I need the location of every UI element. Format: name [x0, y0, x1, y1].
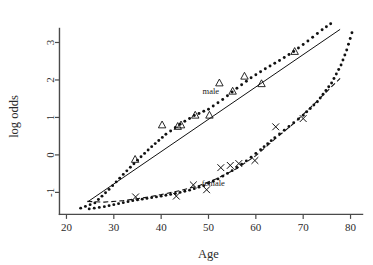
x-tick-label: 60 — [250, 221, 262, 233]
fit-dot — [273, 62, 276, 65]
fit-dot — [333, 77, 336, 80]
fit-dot — [129, 166, 132, 169]
fit-dot — [150, 196, 153, 199]
fit-dot — [297, 47, 300, 50]
x-tick-label: 50 — [203, 221, 215, 233]
fit-dot — [278, 132, 281, 135]
fit-dot — [273, 136, 276, 139]
y-tick-label: -1 — [44, 188, 56, 197]
fit-dot — [306, 40, 309, 43]
fit-dot — [288, 53, 291, 56]
fit-dot — [351, 31, 354, 34]
fit-dot — [188, 189, 191, 192]
fit-dot — [302, 114, 305, 117]
fit-dot — [259, 148, 262, 151]
fit-dot — [155, 195, 158, 198]
fit-dot — [212, 104, 215, 107]
fit-dot — [198, 186, 201, 189]
fit-dot — [250, 76, 253, 79]
fit-dot — [297, 117, 300, 120]
fit-dot — [270, 139, 273, 142]
fit-dot — [143, 152, 146, 155]
axes-layer: 20304050607080-10123 — [44, 28, 362, 233]
fit-dot — [207, 108, 210, 111]
fit-dot — [269, 65, 272, 68]
fit-dot — [254, 152, 257, 155]
fit-dot — [104, 191, 107, 194]
fit-dot — [122, 201, 125, 204]
fit-dot — [316, 32, 319, 35]
fit-dot — [89, 203, 92, 206]
fit-dot — [147, 149, 150, 152]
fit-dot — [188, 117, 191, 120]
x-tick-label: 40 — [156, 221, 168, 233]
y-tick-label: 3 — [44, 39, 56, 45]
fit-dot — [329, 22, 332, 25]
fit-dot — [264, 67, 267, 70]
fit-dot — [122, 173, 125, 176]
fit-dot — [140, 155, 143, 158]
y-tick-label: 1 — [44, 115, 56, 121]
fit-dot — [342, 59, 345, 62]
marker-triangle — [158, 121, 165, 128]
series-male — [131, 48, 298, 163]
fit-dot — [164, 194, 167, 197]
fit-dot — [101, 195, 104, 198]
fit-dot — [217, 101, 220, 104]
fit-dot — [327, 85, 330, 88]
fit-dot — [340, 64, 343, 67]
fit-dot — [325, 25, 328, 28]
fit-dot — [98, 206, 101, 209]
fit-dot — [202, 110, 205, 113]
fit-dot — [226, 172, 229, 175]
fit-dot — [283, 129, 286, 132]
fit-dot — [278, 59, 281, 62]
fit-dot — [240, 83, 243, 86]
labels-layer: Agelog oddsmalefemale — [7, 86, 225, 261]
fit-dot — [97, 198, 100, 201]
fit-dot — [235, 87, 238, 90]
annotation-female: female — [202, 178, 225, 188]
y-tick-label: 0 — [44, 152, 56, 158]
fit-dot — [198, 112, 201, 115]
fit-dot — [141, 198, 144, 201]
fit-dot — [117, 202, 120, 205]
fit-dot — [245, 80, 248, 83]
fit-dot — [93, 207, 96, 210]
fit-dot — [108, 204, 111, 207]
fit-dot — [157, 139, 160, 142]
fit-dot — [345, 49, 348, 52]
fit-dot — [337, 68, 340, 71]
fit-dot — [88, 207, 91, 210]
fit-dot — [263, 145, 266, 148]
fit-dot — [319, 97, 322, 100]
fit-dot — [111, 184, 114, 187]
fit-dot — [221, 98, 224, 101]
fit-dot — [245, 159, 248, 162]
fit-dot — [288, 125, 291, 128]
fit-dot — [160, 195, 163, 198]
x-tick-label: 20 — [61, 221, 73, 233]
fit-dot — [330, 82, 333, 85]
fit-dot — [79, 207, 82, 210]
fit-dot — [312, 104, 315, 107]
fit-dot — [305, 110, 308, 113]
fit-dot — [349, 37, 352, 40]
figure-container: 20304050607080-10123 Agelog oddsmalefema… — [0, 0, 373, 265]
fit-dot — [292, 121, 295, 124]
fit-dot — [309, 107, 312, 110]
fit-dot — [183, 120, 186, 123]
fit-dot — [150, 145, 153, 148]
fit-dot — [161, 136, 164, 139]
fit-dot — [254, 73, 257, 76]
y-axis-title: log odds — [7, 95, 21, 138]
fit-dot — [146, 197, 149, 200]
fit-dot — [266, 142, 269, 145]
fit-dot — [115, 180, 118, 183]
fit-dot — [193, 187, 196, 190]
fit-dot — [324, 89, 327, 92]
fit-dot — [347, 43, 350, 46]
marker-triangle — [216, 79, 223, 86]
fit-dot — [103, 205, 106, 208]
fit-dot — [231, 169, 234, 172]
